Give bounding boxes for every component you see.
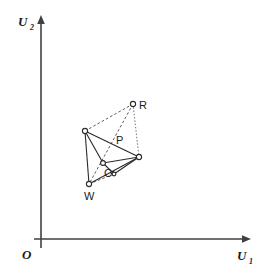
x-axis-arrowhead (242, 235, 251, 243)
vertex-labels-group: R C W P (84, 99, 147, 202)
diagram-canvas: R C W P U 2 U 1 O (0, 0, 264, 274)
y-axis-arrowhead (37, 15, 45, 24)
origin-label: O (22, 247, 32, 262)
vertex-dot-left (82, 128, 87, 133)
axes-group (34, 15, 251, 248)
x-axis-label: U (237, 248, 247, 263)
x-axis-label-subscript: 1 (249, 257, 253, 266)
vertex-dot-right (136, 154, 141, 159)
edge-L-W (85, 131, 89, 184)
vertex-label-r: R (139, 99, 147, 111)
figure-container: R C W P U 2 U 1 O (0, 0, 264, 274)
vertex-dot-r (130, 101, 135, 106)
edge-L-E (85, 131, 139, 157)
axis-labels-group: U 2 U 1 O (18, 14, 253, 266)
vertex-label-c: C (104, 167, 112, 179)
y-axis-label: U (18, 14, 28, 29)
edge-R-E (133, 104, 139, 157)
vertex-dot-w (86, 181, 91, 186)
vertex-label-w: W (84, 190, 95, 202)
vertex-dot-q (112, 172, 116, 176)
vertex-dot-c (101, 161, 106, 166)
y-axis-label-subscript: 2 (29, 23, 34, 32)
point-label-p: P (116, 134, 123, 146)
